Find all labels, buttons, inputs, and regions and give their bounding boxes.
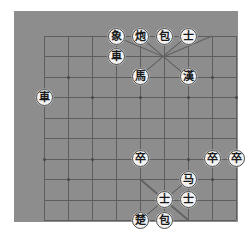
grid-line-vertical xyxy=(92,36,93,220)
grid-line-vertical xyxy=(68,36,69,220)
grid-line-vertical xyxy=(212,36,213,220)
position-marker xyxy=(139,96,142,99)
grid-line-vertical xyxy=(236,36,237,220)
red-horse[interactable]: 马 xyxy=(180,171,197,188)
position-marker xyxy=(211,76,214,79)
xiangqi-screenshot: 象炮包士車馬漢車卒卒卒马士士楚包 xyxy=(0,0,251,232)
red-general[interactable]: 楚 xyxy=(132,212,149,229)
board-grid: 象炮包士車馬漢車卒卒卒马士士楚包 xyxy=(44,36,236,220)
black-elephant[interactable]: 象 xyxy=(108,28,125,45)
position-marker xyxy=(91,158,94,161)
red-advisor-2[interactable]: 士 xyxy=(180,191,197,208)
position-marker xyxy=(67,178,70,181)
position-marker xyxy=(91,96,94,99)
grid-line-vertical xyxy=(140,36,141,220)
black-advisor-1[interactable]: 士 xyxy=(180,28,197,45)
black-horse-1[interactable]: 馬 xyxy=(132,68,149,85)
red-pawn-3[interactable]: 卒 xyxy=(228,150,245,167)
board-frame: 象炮包士車馬漢車卒卒卒马士士楚包 xyxy=(14,11,238,222)
position-marker xyxy=(187,158,190,161)
black-chariot-2[interactable]: 車 xyxy=(36,89,53,106)
black-cannon-1[interactable]: 炮 xyxy=(132,28,149,45)
red-cannon[interactable]: 包 xyxy=(156,212,173,229)
red-pawn-2[interactable]: 卒 xyxy=(204,150,221,167)
position-marker xyxy=(235,96,238,99)
position-marker xyxy=(211,178,214,181)
red-advisor-1[interactable]: 士 xyxy=(156,191,173,208)
position-marker xyxy=(187,96,190,99)
black-cannon-2[interactable]: 包 xyxy=(156,28,173,45)
position-marker xyxy=(43,158,46,161)
black-general[interactable]: 漢 xyxy=(180,68,197,85)
position-marker xyxy=(67,76,70,79)
red-pawn-1[interactable]: 卒 xyxy=(132,150,149,167)
grid-line-vertical xyxy=(44,36,45,220)
black-chariot-1[interactable]: 車 xyxy=(108,48,125,65)
